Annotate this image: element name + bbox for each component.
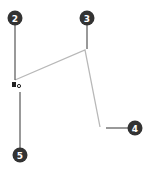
callout-3-label: 3 (84, 14, 90, 24)
callout-2: 2 (8, 11, 23, 26)
callout-diagram: 2 3 4 5 (0, 0, 156, 170)
callout-5: 5 (13, 148, 28, 163)
callout-4-label: 4 (132, 124, 138, 134)
callout-3: 3 (80, 11, 95, 26)
callout-5-label: 5 (17, 151, 23, 161)
shape-outline (15, 50, 100, 127)
callout-4: 4 (128, 121, 143, 136)
anchor-point-marker-icon (12, 82, 21, 88)
callout-2-label: 2 (12, 14, 18, 24)
